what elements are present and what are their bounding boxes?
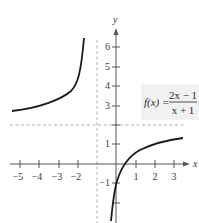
function-graph: x y −5 −4 −3 −2 1 2 3 6 5 4 3 1 <box>0 0 199 223</box>
svg-text:2x − 1: 2x − 1 <box>169 89 197 101</box>
svg-text:−4: −4 <box>32 171 43 182</box>
svg-text:−3: −3 <box>52 171 63 182</box>
svg-text:3: 3 <box>105 100 110 111</box>
svg-text:5: 5 <box>105 61 110 72</box>
y-tick-labels: 6 5 4 3 1 −1 <box>99 41 110 188</box>
svg-text:−2: −2 <box>71 171 82 182</box>
x-axis-arrow-icon <box>183 162 190 167</box>
svg-text:3: 3 <box>172 171 177 182</box>
svg-text:4: 4 <box>105 80 110 91</box>
svg-text:x + 1: x + 1 <box>172 104 195 116</box>
x-axis-label: x <box>192 158 198 169</box>
y-axis-arrow-icon <box>114 28 119 35</box>
left-branch-curve <box>12 38 84 111</box>
svg-text:−1: −1 <box>99 177 110 188</box>
svg-text:2: 2 <box>153 171 158 182</box>
svg-text:f(x) =: f(x) = <box>144 96 169 109</box>
svg-text:1: 1 <box>134 171 139 182</box>
svg-text:1: 1 <box>105 138 110 149</box>
svg-text:−5: −5 <box>13 171 24 182</box>
svg-text:6: 6 <box>105 41 110 52</box>
x-tick-labels: −5 −4 −3 −2 1 2 3 <box>13 171 177 182</box>
y-axis-label: y <box>112 14 118 25</box>
